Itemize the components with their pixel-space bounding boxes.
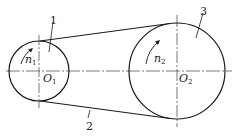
speed-label-n2: n2 [154,52,166,66]
center-label-o1: O1 [43,72,57,86]
center-label-o2: O2 [179,72,193,86]
part-label-3: 3 [200,5,207,18]
speed-label-n1: n1 [25,53,37,67]
part-label-2: 2 [86,120,93,133]
belt-top-span [40,24,170,42]
part-label-1: 1 [50,14,57,27]
leader-line-2 [88,110,90,118]
belt-bottom-span [40,101,170,119]
belt-drive-diagram: 1 2 3 n1 n2 O1 O2 [0,0,234,137]
